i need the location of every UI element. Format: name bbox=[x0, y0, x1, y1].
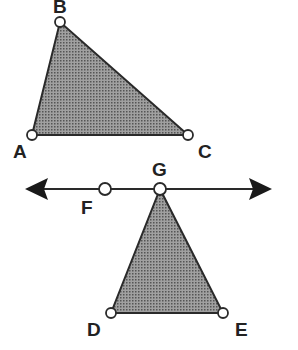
geometry-diagram: B A C G F D E bbox=[0, 0, 298, 350]
triangle-abc bbox=[32, 22, 188, 135]
label-a: A bbox=[13, 141, 27, 162]
point-c bbox=[183, 130, 193, 140]
point-d bbox=[106, 308, 116, 318]
label-d: D bbox=[87, 319, 101, 340]
point-e bbox=[218, 308, 228, 318]
point-g bbox=[154, 183, 166, 195]
label-g: G bbox=[152, 159, 167, 180]
label-e: E bbox=[235, 319, 248, 340]
point-f bbox=[99, 183, 111, 195]
label-c: C bbox=[198, 141, 212, 162]
point-b bbox=[55, 17, 65, 27]
point-a bbox=[27, 130, 37, 140]
label-f: F bbox=[81, 197, 93, 218]
triangle-dge bbox=[111, 189, 223, 313]
label-b: B bbox=[53, 0, 67, 17]
